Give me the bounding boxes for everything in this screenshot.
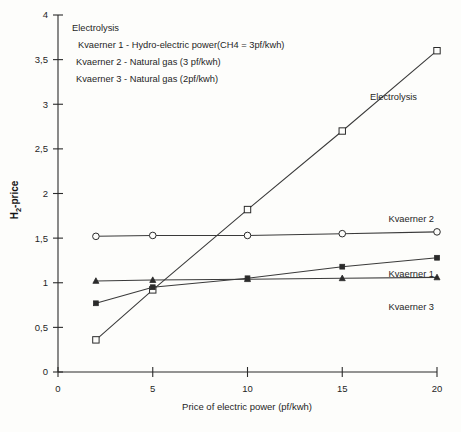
line-chart-canvas: 00,511,522,533,54 05101520 Price of elec… [0,0,461,432]
marker-filled-square [435,255,440,260]
y-axis-ticks: 00,511,522,533,54 [35,9,63,377]
inline-label-kvaerner-1: Kvaerner 1 [389,269,434,279]
y-axis-title: H2-price [9,180,23,219]
series-polyline [96,232,437,236]
marker-filled-square [340,264,345,269]
x-tick-label: 5 [150,383,155,394]
axes-group [58,15,437,372]
y-tick-label: 2 [43,188,48,199]
x-tick-label: 15 [337,383,348,394]
legend-block: ElectrolysisKvaerner 1 - Hydro-electric … [72,23,284,84]
x-tick-label: 10 [242,383,253,394]
y-tick-label: 3 [43,99,48,110]
chart-figure: 00,511,522,533,54 05101520 Price of elec… [0,0,461,432]
y-tick-label: 0 [43,366,48,377]
marker-open-square [244,206,250,212]
legend-line: Electrolysis [72,23,119,33]
y-tick-label: 0,5 [35,322,48,333]
legend-line: Kvaerner 3 - Natural gas (2pf/kwh) [76,74,218,84]
series-kvaerner-2 [93,229,441,240]
marker-open-square [93,337,99,343]
marker-filled-square [150,285,155,290]
marker-open-circle [244,232,251,239]
legend-line: Kvaerner 1 - Hydro-electric power(CH4 = … [78,40,284,50]
x-tick-label: 0 [55,383,60,394]
y-tick-label: 1 [43,277,48,288]
series-polyline [96,277,437,281]
x-axis-ticks: 05101520 [55,367,442,394]
x-axis-title-text: Price of electric power (pf/kwh) [182,401,312,412]
y-tick-label: 1,5 [35,233,48,244]
marker-open-circle [149,232,156,239]
x-axis-title: Price of electric power (pf/kwh) [182,401,312,412]
x-tick-label: 20 [432,383,443,394]
legend-line: Kvaerner 2 - Natural gas (3 pf/kwh) [76,57,221,67]
marker-open-circle [93,233,100,240]
marker-open-square [339,128,345,134]
y-tick-label: 4 [43,9,48,20]
y-tick-label: 3,5 [35,54,48,65]
marker-open-circle [434,229,441,236]
inline-series-labels: ElectrolysisKvaerner 2Kvaerner 1Kvaerner… [370,92,434,312]
y-tick-label: 2,5 [35,143,48,154]
marker-open-circle [339,230,346,237]
inline-label-kvaerner-3: Kvaerner 3 [389,302,434,312]
marker-filled-square [94,301,99,306]
inline-label-electrolysis: Electrolysis [370,92,417,102]
y-axis-title-text: H2-price [9,180,23,219]
marker-open-square [434,48,440,54]
inline-label-kvaerner-2: Kvaerner 2 [389,214,434,224]
